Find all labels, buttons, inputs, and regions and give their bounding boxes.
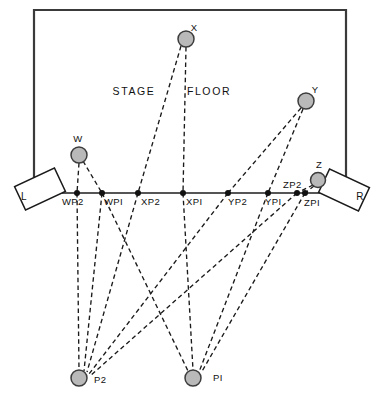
ray-w-wpi — [83, 161, 102, 193]
source-w[interactable] — [71, 147, 87, 163]
source-z[interactable] — [311, 173, 326, 188]
ray-ypi-p1 — [199, 193, 268, 372]
floor-label: FLOOR — [187, 85, 231, 97]
ray-xpi-p1 — [183, 193, 193, 370]
point-xp2-label: XP2 — [141, 196, 160, 207]
ray-zp2-p2 — [90, 193, 297, 376]
point-ypi-label: YPI — [265, 196, 282, 207]
listener-p2-label: P2 — [94, 374, 106, 385]
source-x[interactable] — [178, 31, 194, 47]
ray-wpi-p2 — [84, 193, 102, 371]
ray-xp2-p2 — [87, 193, 138, 372]
speaker-right[interactable] — [319, 169, 370, 211]
speaker-left[interactable] — [15, 168, 66, 210]
diagram-svg: LRWP2WPIXP2XPIYP2YPIZP2ZPIWXYZP2PISTAGEF… — [0, 0, 377, 393]
point-wpi-label: WPI — [104, 196, 123, 207]
source-y[interactable] — [298, 93, 314, 109]
point-yp2-label: YP2 — [228, 196, 247, 207]
point-xpi-label: XPI — [186, 196, 203, 207]
point-zp2-label: ZP2 — [283, 179, 302, 190]
ray-yp2-p2 — [89, 193, 228, 374]
ray-zpi-p1 — [201, 193, 305, 373]
ray-x-xp2 — [138, 46, 181, 193]
point-wp2-label: WP2 — [62, 196, 84, 207]
source-y-label: Y — [312, 84, 319, 95]
speaker-right-label: R — [356, 191, 364, 202]
diagram-canvas: LRWP2WPIXP2XPIYP2YPIZP2ZPIWXYZP2PISTAGEF… — [0, 0, 377, 393]
ray-wp2-p2 — [77, 193, 79, 370]
point-zp2[interactable] — [294, 190, 300, 196]
listener-p1[interactable] — [185, 370, 201, 386]
ray-x-xpi — [183, 47, 186, 193]
ray-w-wp2 — [77, 163, 79, 193]
point-zpi[interactable] — [302, 190, 308, 196]
speaker-left-label: L — [21, 191, 27, 202]
sources-group — [71, 31, 326, 188]
source-x-label: X — [191, 22, 198, 33]
source-z-label: Z — [316, 159, 322, 170]
labels-group: LRWP2WPIXP2XPIYP2YPIZP2ZPIWXYZP2PISTAGEF… — [21, 22, 364, 385]
ray-wpi-cross — [102, 193, 188, 371]
point-zpi-label: ZPI — [304, 197, 320, 208]
listener-p2[interactable] — [71, 370, 87, 386]
source-w-label: W — [73, 133, 82, 144]
stage-label: STAGE — [113, 85, 156, 97]
listener-p1-label: PI — [213, 372, 223, 383]
